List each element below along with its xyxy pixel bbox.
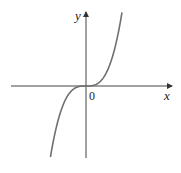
x-axis-label: x xyxy=(163,88,170,103)
origin-label: 0 xyxy=(89,89,95,103)
cubic-graph: y x 0 xyxy=(0,0,181,173)
y-axis-label: y xyxy=(73,8,81,23)
